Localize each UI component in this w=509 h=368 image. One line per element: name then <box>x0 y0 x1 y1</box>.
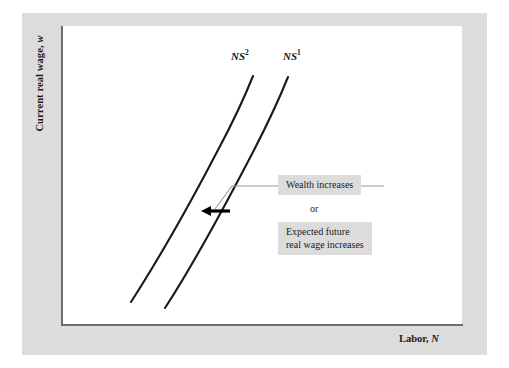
annotation-wealth-increases: Wealth increases <box>278 175 361 195</box>
figure-root: Current real wage, w Labor, N NS2 NS1 We… <box>0 0 509 368</box>
x-axis-title-variable: N <box>431 333 439 344</box>
curve-label-ns1: NS1 <box>283 50 301 62</box>
curve-label-ns2-superscript: 2 <box>245 48 249 57</box>
y-axis-line <box>61 26 63 326</box>
curve-label-ns1-superscript: 1 <box>297 48 301 57</box>
x-axis-title: Labor, N <box>399 333 439 344</box>
curve-label-ns2: NS2 <box>231 50 249 62</box>
y-axis-title-text: Current real wage, <box>34 43 45 132</box>
x-axis-line <box>61 324 463 326</box>
curve-label-ns1-base: NS <box>283 50 297 62</box>
annotation-expected-future-real-wage: Expected futurereal wage increases <box>278 222 372 255</box>
plot-panel <box>62 26 462 325</box>
y-axis-title-variable: w <box>34 35 45 42</box>
curve-label-ns2-base: NS <box>231 50 245 62</box>
y-axis-title: Current real wage, w <box>34 19 45 149</box>
x-axis-title-text: Labor, <box>399 333 431 344</box>
annotation-expected-line2: real wage increases <box>286 239 364 250</box>
annotation-expected-line1: Expected future <box>286 226 350 237</box>
annotation-or: or <box>310 203 318 214</box>
